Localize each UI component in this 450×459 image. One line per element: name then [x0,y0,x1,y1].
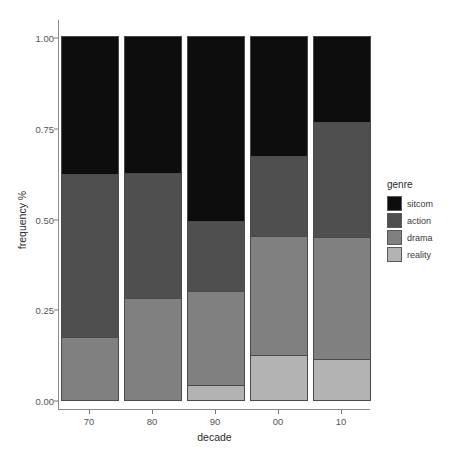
x-axis-tick-label: 70 [84,416,95,427]
x-axis-tick-label: 80 [147,416,158,427]
y-axis-tick-mark [54,310,58,311]
chart-root: frequency % 1.000.750.500.250.00 decade … [0,0,450,459]
y-axis-tick-mark [54,128,58,129]
legend-items: sitcomactiondramareality [387,195,449,263]
bar-00[interactable] [250,36,308,401]
legend-swatch-reality [387,247,402,262]
bar-segment-action[interactable] [62,174,118,337]
bar-segment-drama[interactable] [62,337,118,400]
bar-segment-reality[interactable] [188,385,244,400]
bar-segment-reality[interactable] [251,355,307,400]
legend-item-action[interactable]: action [387,212,449,229]
bar-segment-sitcom[interactable] [251,37,307,156]
bar-70[interactable] [61,36,119,401]
legend-swatch-sitcom [387,196,402,211]
bar-segment-action[interactable] [188,221,244,291]
y-axis-tick-label: 0.50 [36,214,55,225]
x-axis-tick-mark [89,410,90,414]
y-axis-tick-mark [54,401,58,402]
legend-label-drama: drama [407,233,433,243]
x-axis-tick-label: 00 [273,416,284,427]
bar-segment-sitcom[interactable] [188,37,244,221]
legend-item-drama[interactable]: drama [387,229,449,246]
legend-item-sitcom[interactable]: sitcom [387,195,449,212]
bar-segment-drama[interactable] [125,298,181,400]
bar-segment-sitcom[interactable] [62,37,118,174]
bar-segment-action[interactable] [251,156,307,236]
x-axis-tick-mark [152,410,153,414]
legend-swatch-action [387,213,402,228]
bar-10[interactable] [313,36,371,401]
legend-item-reality[interactable]: reality [387,246,449,263]
x-axis-tick-mark [278,410,279,414]
legend-label-action: action [407,216,431,226]
y-axis-tick-mark [54,219,58,220]
legend-label-reality: reality [407,250,431,260]
x-axis-tick-label: 90 [210,416,221,427]
bar-90[interactable] [187,36,245,401]
x-axis-tick-label: 10 [336,416,347,427]
y-axis-tick-label: 0.75 [36,123,55,134]
y-axis-tick-label: 0.00 [36,396,55,407]
legend-swatch-drama [387,230,402,245]
bar-segment-reality[interactable] [314,359,370,400]
bar-segment-action[interactable] [125,173,181,298]
x-axis-line [58,409,370,410]
bar-segment-drama[interactable] [251,236,307,355]
x-axis-tick-mark [341,410,342,414]
y-axis-tick-label: 0.25 [36,305,55,316]
bar-segment-sitcom[interactable] [125,37,181,173]
bar-segment-drama[interactable] [188,291,244,385]
legend-label-sitcom: sitcom [407,199,433,209]
x-axis-tick-mark [215,410,216,414]
plot-panel [59,20,370,409]
legend-title: genre [387,179,449,190]
x-axis-title: decade [59,431,370,443]
y-axis-tick-mark [54,38,58,39]
bar-80[interactable] [124,36,182,401]
bar-segment-drama[interactable] [314,237,370,359]
legend: genre sitcomactiondramareality [387,179,449,263]
y-axis-tick-labels: 1.000.750.500.250.00 [26,0,54,459]
bar-segment-sitcom[interactable] [314,37,370,122]
bar-segment-action[interactable] [314,122,370,237]
y-axis-tick-label: 1.00 [36,33,55,44]
